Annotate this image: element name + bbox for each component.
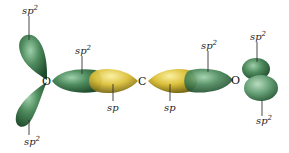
- label-right-bottom: sp2: [256, 114, 273, 126]
- label-left-top: sp2: [22, 4, 39, 16]
- left-lower-sp2-lobe: [16, 82, 47, 127]
- right-bond-sp2-lobe: [184, 69, 233, 93]
- label-carbon-right: sp: [164, 102, 176, 113]
- label-carbon-left: sp: [107, 102, 119, 113]
- atom-o-left: O: [42, 75, 51, 88]
- label-left-bond: sp2: [75, 44, 92, 56]
- co2-orbital-diagram: O C O sp2 sp2 sp2 sp sp sp2 sp2 sp2: [0, 0, 289, 153]
- label-right-top: sp2: [250, 30, 267, 42]
- left-upper-sp2-lobe: [19, 35, 47, 80]
- carbon-left-sp-lobe: [89, 69, 138, 93]
- label-right-bond: sp2: [201, 39, 218, 51]
- atom-c-center: C: [138, 75, 146, 88]
- label-left-bottom: sp2: [24, 135, 41, 147]
- atom-o-right: O: [231, 74, 240, 87]
- orbital-figure: O C O sp2 sp2 sp2 sp sp sp2 sp2 sp2: [0, 0, 289, 153]
- right-lower-sp2-lobe: [244, 75, 278, 101]
